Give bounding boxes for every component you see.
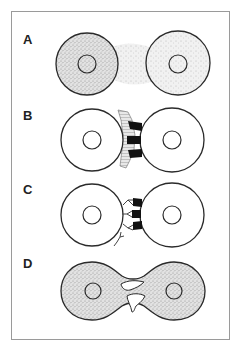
cell-left-b	[61, 109, 123, 171]
cell-left-c	[61, 184, 123, 246]
cell-diagram	[0, 0, 243, 352]
panel-label-b: B	[23, 108, 32, 123]
panel-label-a: A	[23, 32, 32, 47]
panel-d	[61, 262, 205, 320]
panel-label-c: C	[23, 182, 32, 197]
junction-b-2	[127, 136, 141, 144]
junction-b-3	[128, 149, 142, 158]
panel-b	[61, 108, 204, 172]
cell-right-b	[140, 108, 204, 172]
cell-left-a	[56, 33, 118, 95]
cell-right-a	[146, 31, 210, 95]
panel-label-d: D	[23, 256, 32, 271]
panel-c	[61, 183, 204, 247]
cell-right-c	[140, 183, 204, 247]
panel-a	[56, 31, 210, 95]
